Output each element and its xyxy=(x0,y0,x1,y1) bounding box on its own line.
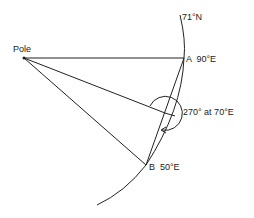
point-b-label: B 50°E xyxy=(149,162,180,172)
great-circle-a-b xyxy=(146,58,184,165)
pole-point xyxy=(23,57,26,60)
point-a-label: A 90°E xyxy=(186,54,216,64)
meridian-pole-b xyxy=(24,58,146,165)
parallel-71n-arc xyxy=(97,15,185,205)
latitude-label: 71°N xyxy=(182,12,202,22)
meridian-pole-70e xyxy=(24,58,165,113)
pole-label: Pole xyxy=(13,44,31,54)
course-label: 270° at 70°E xyxy=(183,107,234,117)
perpendicular-tick xyxy=(165,113,175,116)
great-circle-diagram: Pole A 90°E B 50°E 71°N 270° at 70°E xyxy=(0,0,254,218)
